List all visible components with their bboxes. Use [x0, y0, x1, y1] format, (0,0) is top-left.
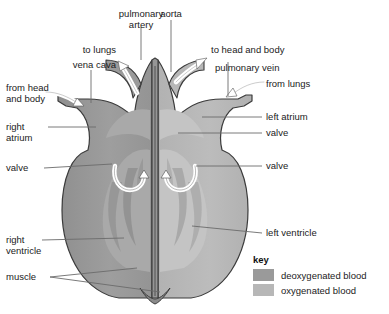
label-aorta: aorta — [140, 8, 202, 19]
label-left-ventricle: left ventricle — [266, 227, 317, 238]
label-pulmonary-vein: pulmonary vein — [215, 62, 279, 73]
key-label-oxygenated: oxygenated blood — [281, 285, 356, 296]
key-label-deoxygenated: deoxygenated blood — [281, 270, 367, 281]
key-item-oxygenated: oxygenated blood — [253, 284, 387, 296]
heart-right-side-deoxygenated — [58, 60, 152, 298]
key-swatch-oxygenated — [253, 284, 274, 296]
label-vena-cava: vena cava — [20, 59, 116, 70]
label-right-ventricle: right ventricle — [6, 234, 41, 256]
label-valve-left: valve — [6, 162, 28, 173]
key-item-deoxygenated: deoxygenated blood — [253, 269, 387, 281]
label-valve-right-upper: valve — [266, 127, 288, 138]
label-left-atrium: left atrium — [266, 111, 308, 122]
key-title: key — [253, 254, 387, 265]
heart-diagram-figure: pulmonary artery aorta to lungs to head … — [0, 0, 389, 314]
heart-left-side-oxygenated — [158, 60, 252, 298]
key-swatch-deoxygenated — [253, 269, 274, 281]
label-right-atrium: right atrium — [6, 121, 32, 143]
label-muscle: muscle — [6, 271, 36, 282]
label-to-lungs: to lungs — [30, 44, 116, 55]
heart-illustration — [46, 58, 264, 304]
label-from-head-and-body: from head and body — [6, 82, 49, 104]
label-to-head-and-body: to head and body — [211, 44, 284, 55]
label-valve-right-lower: valve — [266, 160, 288, 171]
key-legend: key deoxygenated blood oxygenated blood — [253, 254, 387, 299]
from-lungs-flow-arrow — [226, 82, 264, 97]
label-from-lungs: from lungs — [266, 78, 310, 89]
